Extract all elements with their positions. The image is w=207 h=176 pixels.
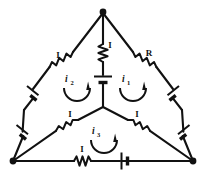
loop-arrow-i3	[113, 134, 117, 143]
wire-right-mid-upper	[156, 67, 173, 89]
circuit-diagram-figure: i 2 i 1 i 3 I I R I I I	[0, 0, 207, 176]
wire-right-cell-approach	[182, 110, 183, 132]
loop-arrow-i2	[86, 82, 90, 91]
resistor-top-left	[50, 52, 73, 67]
wire-inner-right-upper	[103, 107, 128, 120]
branch-apex-to-bottom-left	[13, 13, 103, 161]
loop-label-i1-subscript: 1	[127, 79, 130, 86]
wire-left-between-cells	[24, 98, 34, 110]
wire-inner-left-upper	[78, 107, 103, 120]
resistor-top-right	[133, 52, 156, 67]
loop-label-i1: i	[122, 74, 125, 84]
label-resistor-top-center: I	[108, 40, 112, 50]
loop-label-i2: i	[65, 74, 68, 84]
loop-arrow-i1	[142, 82, 146, 91]
wire-left-cell-approach	[23, 110, 24, 132]
loop-arc-i1	[120, 88, 146, 101]
wire-left-mid-upper	[33, 67, 50, 89]
branch-apex-to-center	[94, 13, 112, 107]
branch-bottom-edge	[13, 153, 193, 170]
resistor-lower-right-inner	[128, 120, 150, 131]
mesh-loop-i1: i 1	[120, 74, 146, 101]
node-bottom-left	[10, 158, 17, 165]
wire-right-between-cells	[172, 98, 182, 110]
resistor-lower-left-inner	[56, 120, 78, 131]
loop-label-i2-subscript: 2	[71, 79, 74, 86]
loop-label-i3: i	[92, 126, 95, 136]
loop-label-i3-subscript: 3	[97, 131, 101, 138]
loop-arc-i2	[64, 88, 90, 101]
label-resistor-bottom: I	[80, 144, 84, 154]
mesh-loop-i2: i 2	[64, 74, 90, 101]
resistor-bottom	[74, 156, 91, 165]
resistor-top-center	[98, 44, 107, 62]
branch-apex-to-bottom-right	[103, 13, 193, 161]
loop-arc-i3	[91, 140, 117, 153]
label-resistor-lower-right-inner: I	[135, 109, 139, 119]
node-bottom-right	[190, 158, 197, 165]
circuit-schematic-svg: i 2 i 1 i 3 I I R I I I	[0, 0, 207, 176]
label-resistor-top-left: I	[56, 50, 60, 60]
mesh-loop-i3: i 3	[91, 126, 117, 153]
node-apex	[100, 9, 107, 16]
label-resistor-lower-left-inner: I	[68, 109, 72, 119]
label-resistor-top-right: R	[146, 48, 153, 58]
